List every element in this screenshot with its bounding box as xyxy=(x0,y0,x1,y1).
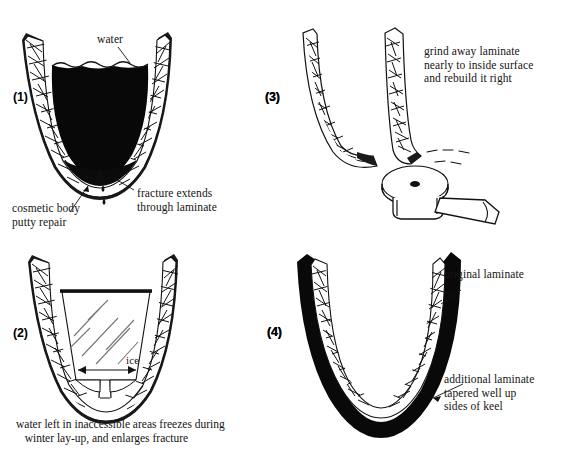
label-grind-instruction: grind away laminate nearly to inside sur… xyxy=(424,45,533,86)
leader-water xyxy=(118,47,130,63)
panel-4-number-visible: (4) xyxy=(267,325,282,339)
enlarged-fracture xyxy=(99,380,111,398)
grinder-disc-hub xyxy=(410,181,420,187)
caption-panel-2: water left in inaccessible areas freezes… xyxy=(16,417,225,445)
leader-additional-arrowhead xyxy=(433,396,441,402)
label-original-laminate: original laminate xyxy=(444,268,524,282)
label-additional-laminate: additional laminate tapered well up side… xyxy=(444,373,534,414)
panel-3-drawing xyxy=(285,0,569,232)
panel-4-drawing xyxy=(285,232,569,454)
panel-4: (4) xyxy=(285,232,569,454)
grinder-body xyxy=(393,196,443,219)
panel-3: (3) xyxy=(285,0,569,232)
hull-limb-right xyxy=(385,28,421,164)
label-water: water xyxy=(97,33,123,47)
label-fracture-extends: fracture extends through laminate xyxy=(137,187,217,214)
grinder-handle xyxy=(435,198,499,224)
panel-2-number: (2) xyxy=(13,326,28,340)
label-cosmetic-putty: cosmetic body putty repair xyxy=(12,202,80,229)
waterline xyxy=(52,62,148,68)
panel-3-number-visible: (3) xyxy=(265,90,280,104)
label-ice: ice xyxy=(126,354,139,368)
grinding-motion-dashes xyxy=(427,150,469,164)
fracture-void xyxy=(76,380,136,392)
technical-illustration: (1) water fracture extends through lamin… xyxy=(0,0,569,454)
panel-1-number: (1) xyxy=(13,90,28,104)
